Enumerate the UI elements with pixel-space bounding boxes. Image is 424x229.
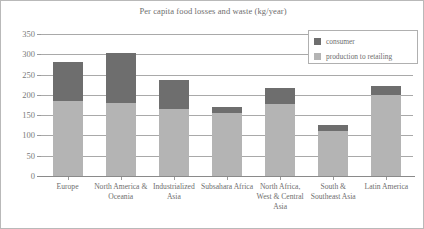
y-axis-tick-label: 250 [5, 71, 35, 80]
bar-segment-consumer [106, 53, 136, 103]
y-axis-tick-mark [37, 156, 41, 157]
legend-item-consumer: consumer [314, 35, 412, 47]
bar-latin-america [371, 86, 401, 176]
bar-subsahara-africa [212, 107, 242, 176]
legend-swatch-production-to-retailing [314, 53, 321, 60]
y-axis-tick-mark [37, 34, 41, 35]
y-axis-tick-label: 200 [5, 91, 35, 100]
bar-segment-production-to-retailing [318, 131, 348, 176]
gridline [41, 75, 413, 76]
y-axis-tick-mark [37, 95, 41, 96]
x-axis-category-label: Latin America [360, 182, 413, 192]
bar-north-africa-west-central-asia [265, 88, 295, 176]
bar-europe [53, 62, 83, 176]
chart-title: Per capita food losses and waste (kg/yea… [1, 6, 424, 16]
y-axis-tick-mark [37, 135, 41, 136]
x-axis-tick-mark [227, 177, 228, 180]
legend-swatch-consumer [314, 38, 321, 45]
bar-segment-consumer [53, 62, 83, 101]
x-axis-tick-mark [68, 177, 69, 180]
x-axis-tick-mark [174, 177, 175, 180]
x-axis-category-label: South & Southeast Asia [307, 182, 360, 202]
bar-industrialized-asia [159, 80, 189, 176]
x-axis-tick-mark [333, 177, 334, 180]
x-axis-tick-mark [386, 177, 387, 180]
y-axis-tick-label: 50 [5, 152, 35, 161]
x-axis-category-label: Europe [41, 182, 94, 192]
y-axis-tick-label: 0 [5, 172, 35, 181]
y-axis-tick-label: 350 [5, 30, 35, 39]
gridline [41, 95, 413, 96]
bar-segment-production-to-retailing [159, 109, 189, 176]
y-axis-tick-label: 150 [5, 111, 35, 120]
legend-label-consumer: consumer [326, 37, 355, 46]
bar-north-america-oceania [106, 53, 136, 176]
bar-south-southeast-asia [318, 125, 348, 176]
legend-item-production-to-retailing: production to retailing [314, 50, 412, 62]
chart-legend: consumer production to retailing [308, 30, 418, 64]
chart-container: Per capita food losses and waste (kg/yea… [0, 0, 424, 229]
bar-segment-production-to-retailing [106, 103, 136, 176]
bar-segment-production-to-retailing [53, 101, 83, 176]
y-axis-tick-mark [37, 115, 41, 116]
x-axis-category-label: Industrialized Asia [147, 182, 200, 202]
x-axis-category-label: North Africa, West & Central Asia [254, 182, 307, 212]
bar-segment-consumer [371, 86, 401, 96]
y-axis-tick-label: 100 [5, 131, 35, 140]
bar-segment-production-to-retailing [265, 104, 295, 176]
x-axis-tick-mark [280, 177, 281, 180]
x-axis-tick-mark [121, 177, 122, 180]
x-axis-line [37, 176, 415, 177]
y-axis-tick-mark [37, 54, 41, 55]
y-axis-tick-label: 300 [5, 50, 35, 59]
y-axis-tick-mark [37, 75, 41, 76]
bar-segment-production-to-retailing [371, 95, 401, 176]
legend-label-production-to-retailing: production to retailing [326, 52, 392, 61]
x-axis-category-label: North America & Oceania [94, 182, 147, 202]
bar-segment-production-to-retailing [212, 113, 242, 176]
bar-segment-consumer [265, 88, 295, 103]
x-axis-category-label: Subsahara Africa [200, 182, 253, 192]
bar-segment-consumer [159, 80, 189, 109]
